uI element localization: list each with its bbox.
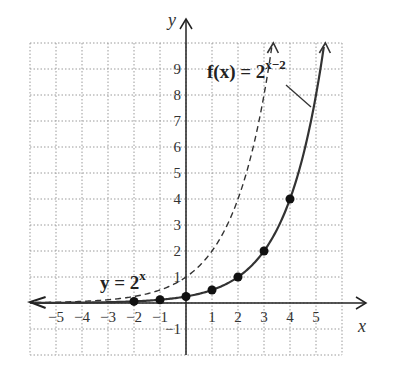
y-tick-label: 5: [174, 165, 182, 181]
y-equation-label: y = 2x: [100, 268, 146, 293]
y-tick-label: 7: [174, 113, 182, 129]
y-tick-label: 3: [174, 217, 182, 233]
x-tick-label: 4: [286, 309, 294, 325]
y-tick-label: 9: [174, 61, 182, 77]
x-tick-label: −2: [126, 309, 142, 325]
y-tick-label: −1: [165, 321, 181, 337]
x-tick-label: −5: [48, 309, 64, 325]
f-equation-label: f(x) = 2x−2: [207, 57, 286, 83]
x-tick-label: 5: [312, 309, 320, 325]
data-point: [234, 273, 243, 282]
exponential-graph: −5−4−3−2−112345−1123456789 f(x) = 2x−2 y…: [0, 0, 394, 373]
data-point: [260, 247, 269, 256]
data-point: [156, 295, 165, 304]
x-tick-label: −4: [74, 309, 90, 325]
data-point: [182, 292, 191, 301]
y-tick-label: 8: [174, 87, 182, 103]
data-point: [208, 286, 217, 295]
x-tick-label: 2: [234, 309, 242, 325]
y-tick-label: 4: [174, 191, 182, 207]
x-tick-label: −3: [100, 309, 116, 325]
y-tick-label: 2: [174, 243, 182, 259]
y-axis-label: y: [166, 10, 176, 30]
solid-curve-arrow-icon: [319, 43, 330, 53]
parent-curve-dashed: [35, 47, 272, 303]
x-tick-label: 3: [260, 309, 268, 325]
x-axis-label: x: [357, 316, 366, 336]
dashed-curve-arrow-icon: [267, 43, 278, 53]
data-point: [286, 195, 295, 204]
y-tick-label: 6: [174, 139, 182, 155]
x-tick-label: 1: [208, 309, 216, 325]
data-point: [130, 297, 139, 306]
